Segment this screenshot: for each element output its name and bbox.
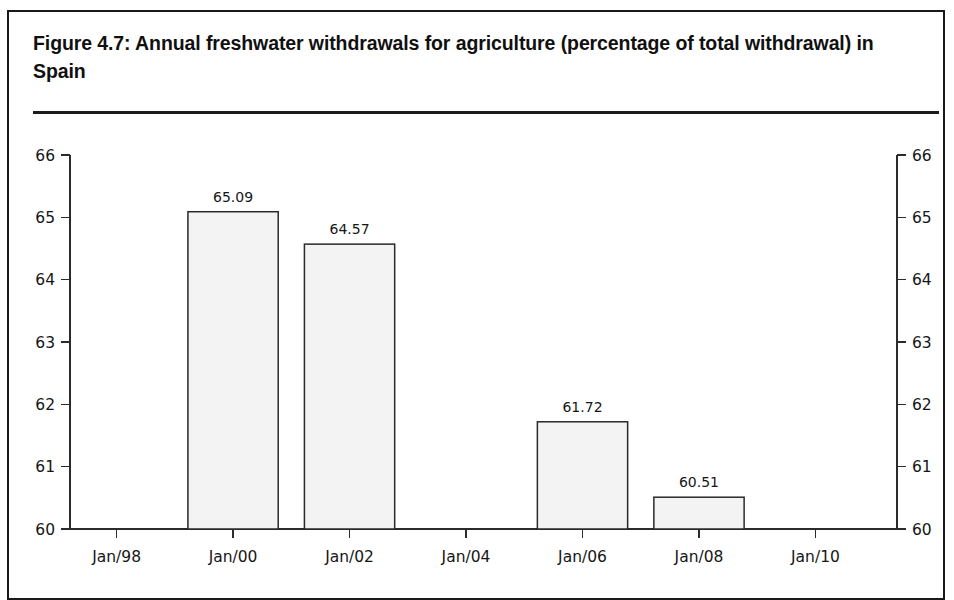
y-tick-label-left: 63 — [35, 334, 55, 352]
y-tick-label-right: 62 — [912, 396, 932, 414]
bar[interactable] — [654, 497, 744, 529]
y-tick-label-left: 64 — [35, 271, 55, 289]
bar-group: 60.51 — [654, 474, 744, 529]
bar-group: 61.72 — [537, 399, 627, 529]
y-tick-label-right: 65 — [912, 209, 932, 227]
y-tick-label-right: 64 — [912, 271, 932, 289]
y-tick-label-right: 61 — [912, 458, 932, 476]
bar-chart: 6666656564646363626261616060Jan/98Jan/00… — [9, 116, 947, 586]
bar-value-label: 64.57 — [330, 221, 370, 237]
x-tick-label: Jan/10 — [790, 548, 840, 566]
x-tick-label: Jan/06 — [557, 548, 607, 566]
bar[interactable] — [188, 212, 278, 529]
bar-group: 64.57 — [304, 221, 394, 529]
y-tick-label-right: 63 — [912, 334, 932, 352]
bar-group: 65.09 — [188, 189, 278, 529]
y-tick-label-left: 61 — [35, 458, 55, 476]
y-tick-label-right: 60 — [912, 521, 932, 539]
x-tick-label: Jan/00 — [208, 548, 258, 566]
bar-value-label: 61.72 — [562, 399, 602, 415]
bar-value-label: 65.09 — [213, 189, 253, 205]
x-tick-label: Jan/02 — [324, 548, 374, 566]
x-tick-label: Jan/08 — [674, 548, 724, 566]
figure-title: Figure 4.7: Annual freshwater withdrawal… — [33, 30, 913, 85]
y-tick-label-right: 66 — [912, 147, 932, 165]
x-tick-label: Jan/04 — [441, 548, 491, 566]
x-tick-label: Jan/98 — [91, 548, 141, 566]
bar[interactable] — [537, 422, 627, 529]
bar-value-label: 60.51 — [679, 474, 719, 490]
chart-plot-area: 6666656564646363626261616060Jan/98Jan/00… — [9, 116, 947, 586]
title-divider — [33, 111, 939, 114]
y-tick-label-left: 62 — [35, 396, 55, 414]
y-tick-label-left: 60 — [35, 521, 55, 539]
bar[interactable] — [304, 244, 394, 529]
y-tick-label-left: 66 — [35, 147, 55, 165]
y-tick-label-left: 65 — [35, 209, 55, 227]
figure-frame: Figure 4.7: Annual freshwater withdrawal… — [7, 10, 945, 600]
